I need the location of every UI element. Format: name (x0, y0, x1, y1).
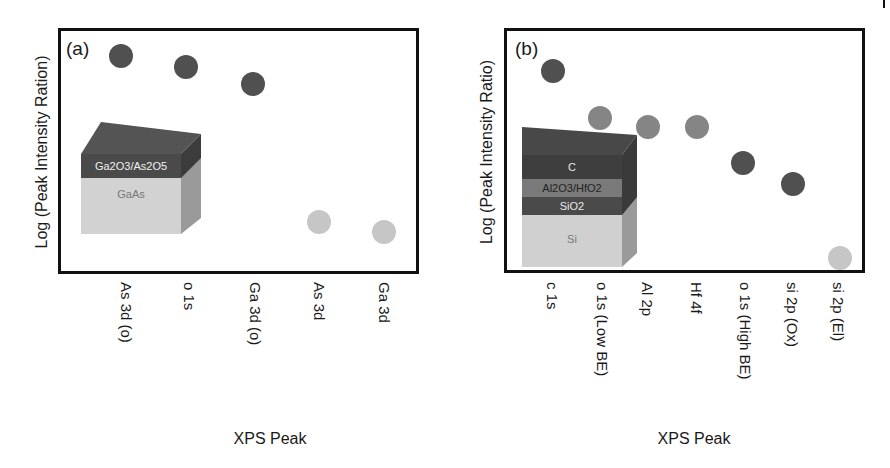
panel-a: Log (Peak Intensity Ration) (a) Ga2O3/As… (0, 0, 445, 468)
panel-tag: (a) (66, 38, 89, 60)
x-axis-label: XPS Peak (658, 430, 731, 448)
y-axis-label: Log (Peak Intensity Ration) (33, 56, 51, 249)
layer-label-high-k: Al2O3/HfO2 (522, 179, 622, 197)
panel-tag: (b) (515, 38, 538, 60)
data-point (307, 210, 331, 234)
data-point (731, 151, 755, 175)
data-point (372, 220, 396, 244)
layer-label-si: Si (522, 229, 622, 249)
y-axis-label: Log (Peak Intensity Ratio) (478, 60, 496, 244)
data-point (241, 72, 265, 96)
x-tick-label: Ga 3d (o) (248, 282, 263, 345)
layer-stack-inset: Ga2O3/As2O5 GaAs (81, 122, 201, 242)
x-tick-label: c 1s (545, 282, 560, 310)
data-point (685, 115, 709, 139)
x-tick-label: Hf 4f (689, 282, 704, 314)
x-tick-label: o 1s (182, 282, 197, 310)
layer-label-sio2: SiO2 (522, 197, 622, 215)
panel-b: Log (Peak Intensity Ratio) (b) C Al2O3/H… (445, 0, 890, 468)
x-tick-label: As 3d (312, 282, 327, 320)
layer-stack-inset: C Al2O3/HfO2 SiO2 Si (522, 127, 637, 270)
x-tick-label: si 2p (Ox) (785, 282, 800, 347)
x-tick-label: As 3d (o) (119, 282, 134, 343)
page-edge-mark (883, 0, 885, 8)
data-point (109, 44, 133, 68)
x-tick-label: o 1s (Low BE) (595, 282, 610, 376)
x-tick-label: Ga 3d (377, 282, 392, 323)
layer-stack-graphic (81, 122, 201, 242)
layer-label-oxide: Ga2O3/As2O5 (81, 156, 181, 176)
x-tick-label: o 1s (High BE) (738, 282, 753, 380)
data-point (781, 172, 805, 196)
data-point (588, 106, 612, 130)
data-point (828, 246, 852, 270)
x-tick-label: Al 2p (640, 282, 655, 316)
x-tick-label: si 2p (El) (831, 282, 846, 341)
data-point (541, 59, 565, 83)
layer-label-substrate: GaAs (81, 184, 181, 204)
layer-label-carbon: C (522, 157, 622, 177)
x-axis-label: XPS Peak (234, 430, 307, 448)
data-point (636, 115, 660, 139)
data-point (174, 55, 198, 79)
